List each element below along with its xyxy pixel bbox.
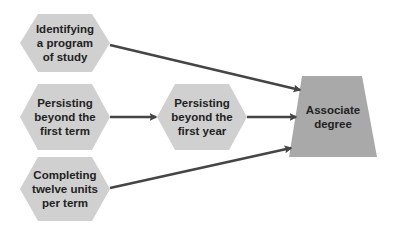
label-identifying-program: Identifying a program of study [20, 14, 110, 72]
label-associate-degree: Associate degree [289, 76, 377, 157]
label-completing-twelve-units: Completing twelve units per term [20, 157, 110, 221]
label-persisting-first-term: Persisting beyond the first term [20, 84, 110, 150]
label-persisting-first-year: Persisting beyond the first year [157, 84, 247, 150]
arrow-twelve-units-to-degree [110, 148, 291, 188]
